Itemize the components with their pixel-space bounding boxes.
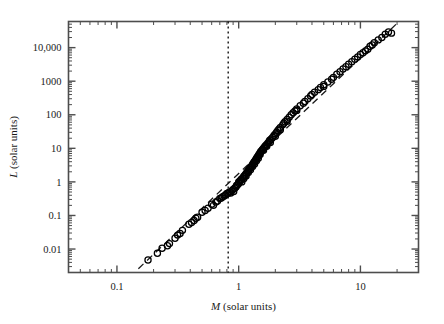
mass-luminosity-chart: 0.1110 0.010.1110100100010,000 M (solar … (0, 0, 444, 324)
y-tick-label: 0.01 (43, 244, 61, 255)
x-tick-label: 10 (355, 281, 366, 292)
scatter-points (145, 29, 395, 263)
y-tick-label: 10,000 (33, 42, 62, 53)
y-tick-label: 1000 (41, 76, 62, 87)
x-tick-labels: 0.1110 (110, 281, 365, 292)
y-tick-label: 1 (56, 177, 61, 188)
y-axis-title-text: L (solar units) (7, 116, 20, 179)
plot-frame (69, 22, 419, 273)
y-tick-labels: 0.010.1110100100010,000 (33, 42, 62, 254)
x-tick-label: 0.1 (110, 281, 123, 292)
plot-border (69, 22, 419, 273)
axis-ticks (69, 22, 419, 273)
y-tick-label: 0.1 (48, 210, 61, 221)
x-axis-title: M (solar units) (210, 300, 276, 313)
mass-luminosity-figure: 0.1110 0.010.1110100100010,000 M (solar … (0, 0, 444, 324)
y-tick-label: 100 (46, 109, 62, 120)
x-axis-title-text: M (solar units) (210, 300, 276, 313)
y-tick-label: 10 (51, 143, 62, 154)
x-tick-label: 1 (236, 281, 241, 292)
y-axis-title: L (solar units) (7, 116, 20, 179)
